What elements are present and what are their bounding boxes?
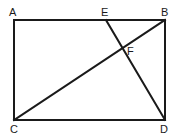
point-label-d: D — [160, 123, 168, 135]
point-label-f: F — [127, 45, 134, 57]
point-label-e: E — [101, 6, 108, 18]
point-label-a: A — [9, 6, 17, 18]
segment-ed — [106, 20, 165, 120]
geometry-diagram: A B C D E F — [0, 0, 176, 140]
diagonal-cb — [14, 20, 165, 120]
point-label-b: B — [161, 6, 168, 18]
point-label-c: C — [10, 123, 18, 135]
